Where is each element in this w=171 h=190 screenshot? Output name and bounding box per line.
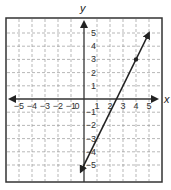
x-tick-label: −2	[53, 101, 63, 111]
y-tick-label: −2	[86, 120, 96, 130]
coordinate-plane: −5−4−3−2−101234554321−1−2−3−4−5 x y	[0, 0, 171, 190]
y-tick-label: 2	[91, 68, 96, 78]
y-axis-label: y	[79, 2, 87, 14]
x-tick-label: 5	[146, 101, 151, 111]
y-tick-label: −1	[86, 107, 96, 117]
data-point	[134, 57, 138, 61]
x-tick-label: 0	[74, 101, 79, 111]
x-axis-label: x	[163, 93, 170, 105]
y-tick-label: 1	[91, 81, 96, 91]
x-tick-label: −4	[27, 101, 37, 111]
y-tick-label: 3	[91, 54, 96, 64]
x-tick-label: −3	[40, 101, 50, 111]
y-tick-label: 4	[91, 41, 96, 51]
y-tick-label: −5	[86, 160, 96, 170]
x-tick-label: 3	[120, 101, 125, 111]
x-tick-label: 4	[133, 101, 138, 111]
y-tick-label: 5	[91, 28, 96, 38]
x-tick-label: −5	[14, 101, 24, 111]
